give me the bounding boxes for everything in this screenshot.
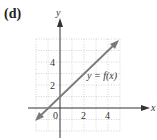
x-tick-0: 0 [53,110,58,121]
x-tick-2: 2 [81,110,86,121]
y-tick-2: 2 [50,80,55,91]
y-axis-arrow-icon [57,18,63,27]
x-axis-label: x [150,102,156,113]
function-label: y = f(x) [86,70,118,82]
y-tick-4: 4 [50,57,55,68]
axes [28,24,145,138]
y-axis-label: y [55,7,61,18]
x-axis-arrow-icon [141,105,150,111]
x-tick-4: 4 [105,110,110,121]
line-chart: x y 0 2 4 2 4 y = f(x) [0,0,157,140]
